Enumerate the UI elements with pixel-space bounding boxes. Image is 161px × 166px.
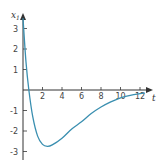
x-tick-label: 2 [40,92,45,101]
x-tick-label: 4 [59,92,64,101]
y-tick-label: -3 [10,148,18,157]
axes [20,13,153,160]
y-tick-label: -1 [10,107,18,116]
y-tick-label: 2 [13,45,18,54]
x-ticks: 24681012 [40,87,145,101]
x-tick-label: 8 [98,92,103,101]
y-tick-label: 3 [13,25,18,34]
line-chart: 24681012 321-1-2-3 t x1 [0,0,161,166]
y-axis-label: x1 [11,10,20,21]
x-tick-label: 6 [79,92,84,101]
x-axis-label: t [152,93,156,103]
y-tick-label: 1 [13,66,18,75]
y-tick-label: -2 [10,127,18,136]
series-line-x1 [23,18,145,146]
